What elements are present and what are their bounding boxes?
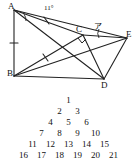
number-cell: 8 xyxy=(51,128,69,139)
number-cell: 12 xyxy=(42,139,60,150)
number-cell: 5 xyxy=(60,117,78,128)
number-cell: 1 xyxy=(60,95,78,106)
number-cell: 15 xyxy=(96,139,114,150)
vertex-label-e: E xyxy=(126,30,132,39)
angle-label-11-degrees: 11° xyxy=(44,5,54,12)
vertex-label-b: B xyxy=(7,69,13,78)
segment-cd xyxy=(83,35,104,79)
number-cell: 10 xyxy=(87,128,105,139)
number-cell: 21 xyxy=(105,150,123,158)
geometry-figure: A B C D E 11° ア xyxy=(0,0,137,96)
vertex-label-c: C xyxy=(76,25,82,34)
number-cell: 4 xyxy=(42,117,60,128)
number-cell: 3 xyxy=(69,106,87,117)
segment-bd xyxy=(14,76,104,79)
number-row: 456 xyxy=(0,117,137,128)
vertex-label-a: A xyxy=(8,2,15,11)
number-row: 78910 xyxy=(0,128,137,139)
number-cell: 2 xyxy=(51,106,69,117)
number-triangle: 1 23 456 78910 1112131415 161718192021 xyxy=(0,95,137,158)
number-cell: 20 xyxy=(87,150,105,158)
segment-ad xyxy=(14,10,104,79)
number-cell: 18 xyxy=(51,150,69,158)
segment-be xyxy=(14,38,127,76)
number-cell: 9 xyxy=(69,128,87,139)
number-cell: 16 xyxy=(15,150,33,158)
number-cell: 11 xyxy=(24,139,42,150)
number-cell: 19 xyxy=(69,150,87,158)
region-label-a-katakana: ア xyxy=(94,23,102,31)
number-cell: 7 xyxy=(33,128,51,139)
number-cell: 13 xyxy=(60,139,78,150)
number-cell: 17 xyxy=(33,150,51,158)
page-root: A B C D E 11° ア 1 23 456 78910 111213141… xyxy=(0,0,137,158)
number-cell: 6 xyxy=(78,117,96,128)
vertex-label-d: D xyxy=(101,81,108,90)
segment-ae-upper xyxy=(14,10,127,38)
number-cell: 14 xyxy=(78,139,96,150)
number-row: 161718192021 xyxy=(0,150,137,158)
number-row: 1 xyxy=(0,95,137,106)
number-row: 1112131415 xyxy=(0,139,137,150)
tick-mark-bc xyxy=(43,54,48,61)
number-row: 23 xyxy=(0,106,137,117)
geometry-figure-svg xyxy=(0,0,137,96)
